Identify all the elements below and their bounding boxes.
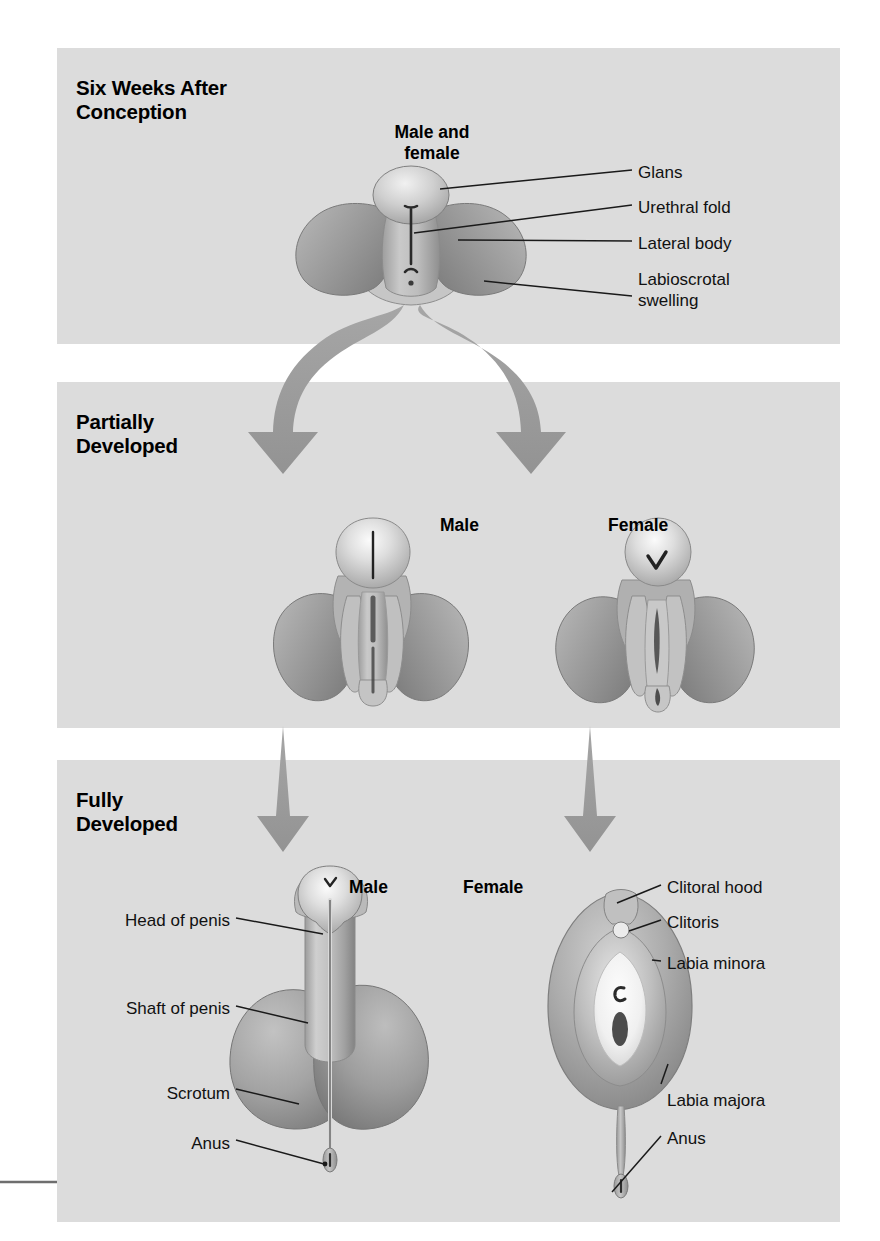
caption-partial-male: Male — [440, 515, 510, 536]
label-head-of-penis: Head of penis — [30, 911, 230, 932]
label-scrotum: Scrotum — [30, 1084, 230, 1105]
caption-male-and-female: Male and female — [372, 122, 492, 164]
figure-stage: Six Weeks After Conception Partially Dev… — [0, 0, 880, 1241]
panel-title-fully-developed: Fully Developed — [76, 788, 178, 836]
panel-title-partially-developed: Partially Developed — [76, 410, 178, 458]
label-anus-female: Anus — [667, 1129, 706, 1150]
caption-partial-female: Female — [608, 515, 698, 536]
label-labioscrotal-swelling: Labioscrotal swelling — [638, 270, 730, 311]
caption-full-female: Female — [463, 877, 553, 898]
label-glans: Glans — [638, 163, 682, 184]
label-urethral-fold: Urethral fold — [638, 198, 731, 219]
label-labia-majora: Labia majora — [667, 1091, 765, 1112]
label-shaft-of-penis: Shaft of penis — [30, 999, 230, 1020]
label-clitoral-hood: Clitoral hood — [667, 878, 762, 899]
panel-title-six-weeks: Six Weeks After Conception — [76, 76, 227, 124]
label-labia-minora: Labia minora — [667, 954, 765, 975]
label-clitoris: Clitoris — [667, 913, 719, 934]
label-lateral-body: Lateral body — [638, 234, 732, 255]
caption-full-male: Male — [349, 877, 419, 898]
label-anus-male: Anus — [30, 1134, 230, 1155]
